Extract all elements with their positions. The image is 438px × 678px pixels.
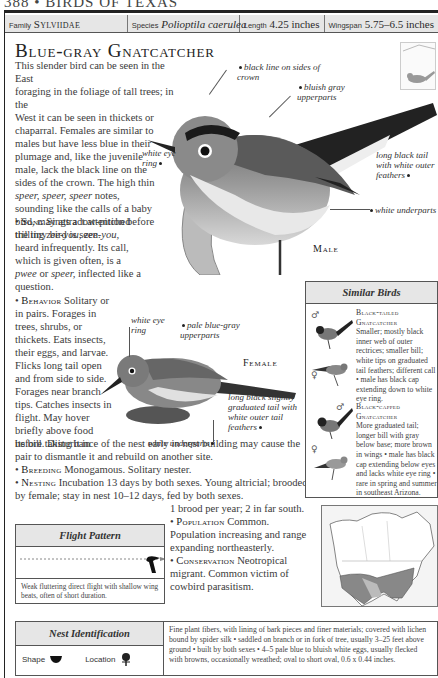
leader-underparts [330, 209, 370, 210]
wingspan-value: 5.75–6.5 inches [365, 18, 434, 30]
wingspan-label: Wingspan [329, 21, 362, 30]
intro-call: speer, speer, speer [15, 190, 92, 201]
family-cell: Family Sylviidae [5, 15, 128, 32]
black-capped-male-thumbnail [312, 406, 354, 440]
cup-nest-shape-icon [49, 654, 63, 664]
female-annotation-eye-ring-text: white eye ring [131, 315, 165, 335]
annotation-upperparts: bluish gray upperparts [297, 82, 357, 102]
female-annotation-tail-text: long black slightly graduated tail with … [228, 392, 297, 432]
male-bird-illustration [145, 85, 438, 275]
annotation-underparts: white underparts [368, 205, 438, 215]
info-bar: Family Sylviidae Species Polioptila caer… [5, 15, 438, 33]
conservation-heading: Conservation [176, 555, 234, 566]
nest-icons-row: Shape Location [16, 646, 163, 672]
similar-bird-text: Black-capped Gnatcatcher More graduated … [356, 402, 438, 498]
breeding-heading: Breeding [21, 464, 61, 475]
nest-description: Fine plant fibers, with lining of bark p… [164, 622, 437, 675]
intro-text: chaparral. Females are similar to males … [15, 125, 155, 188]
similar-bird-description: More graduated tail; longer bill with gr… [356, 421, 438, 498]
length-label: Length [244, 21, 267, 30]
similar-bird-name: Black-tailed Gnatcatcher [356, 308, 438, 327]
annotation-crown-text: black line on sides of crown [237, 62, 320, 82]
annotation-tail-text: long black tail with white outer feather… [376, 150, 435, 180]
flight-pattern-caption: Weak fluttering direct flight with shall… [16, 579, 164, 603]
bird-silhouette-icon [401, 43, 437, 91]
black-capped-female-thumbnail [312, 450, 354, 482]
song-heading: Song [21, 216, 43, 227]
left-rule [4, 13, 5, 678]
population-heading: Population [176, 516, 224, 527]
similar-bird-name: Black-capped Gnatcatcher [356, 402, 438, 421]
female-leader-underparts [213, 420, 214, 442]
north-america-map [322, 506, 438, 608]
nest-identification-panel: Nest Identification Shape Location Fine … [15, 621, 438, 676]
nesting-section: • Nesting Incubation 13 days by both sex… [15, 476, 315, 502]
breeding-text: Monogamous. Solitary nester. [64, 464, 191, 475]
page-thumbnail [400, 42, 436, 90]
species-value: Polioptila caerulea [161, 18, 246, 30]
flight-path-icon [16, 547, 164, 579]
flight-pattern-heading: Flight Pattern [16, 525, 164, 547]
female-annotation-eye-ring: white eye ring [131, 315, 171, 335]
nest-identification-left: Nest Identification Shape Location [16, 622, 164, 675]
species-cell: Species Polioptila caerulea [128, 15, 240, 32]
population-section: • Population Common. Population increasi… [170, 515, 315, 554]
species-label: Species [132, 21, 159, 30]
female-label: Female [243, 357, 277, 368]
female-annotation-underparts-text: white underparts [148, 438, 209, 448]
annotation-eye-ring-text: white eye ring [142, 148, 176, 168]
flight-pattern-panel: Flight Pattern Weak fluttering direct fl… [15, 524, 165, 604]
female-annotation-upperparts: pale blue-gray upperparts [180, 320, 250, 340]
similar-birds-heading: Similar Birds [306, 282, 437, 304]
call-italic-2: speer, [51, 268, 75, 279]
nesting-continued: 1 brood per year; 2 in far south. [170, 502, 315, 515]
similar-birds-panel: Similar Birds ♂ ♀ Black-tailed Gnatcatch… [305, 281, 438, 498]
similar-bird-text: Black-tailed Gnatcatcher Smaller; mostly… [356, 308, 438, 404]
annotation-crown: black line on sides of crown [237, 62, 337, 82]
conservation-section: • Conservation Neotropical migrant. Comm… [170, 554, 315, 593]
annotation-tail: long black tail with white outer feather… [376, 150, 436, 180]
song-or: or [37, 268, 51, 279]
length-value: 4.25 inches [269, 18, 319, 30]
intro-paragraph: This slender bird can be seen in the Eas… [15, 59, 155, 241]
location-label: Location [85, 655, 115, 664]
black-tailed-male-thumbnail [312, 316, 354, 350]
family-value: Sylviidae [34, 18, 80, 30]
female-annotation-underparts: white underparts [148, 438, 223, 448]
nesting-heading: Nesting [21, 477, 56, 488]
nest-identification-heading: Nest Identification [16, 622, 163, 646]
female-leader-eye-ring [129, 327, 130, 357]
behavior-heading: Behavior [21, 295, 61, 306]
breeding-section: • Breeding Monogamous. Solitary nester. [15, 463, 315, 476]
call-italic-1: pwee [15, 268, 37, 279]
male-label: Male [313, 243, 339, 254]
wingspan-cell: Wingspan 5.75–6.5 inches [325, 15, 438, 32]
song-text-mid: heard infrequently. Its call, which is g… [15, 242, 129, 266]
nesting-text: Incubation 13 days by both sexes. Young … [15, 477, 308, 501]
song-section: • Song Sings a low-pitched trilling zee-… [15, 215, 143, 293]
female-annotation-tail: long black slightly graduated tail with … [228, 392, 308, 432]
black-tailed-female-thumbnail [310, 358, 354, 388]
family-label: Family [9, 21, 31, 30]
tree-fork-location-icon [119, 652, 133, 666]
song-italic: zee-you, zee-you, [47, 229, 120, 240]
annotation-upperparts-text: bluish gray upperparts [297, 82, 345, 102]
intro-line-1: This slender bird can be seen in the Eas… [15, 59, 175, 85]
range-map [321, 505, 438, 607]
annotation-eye-ring: white eye ring [142, 148, 177, 168]
flight-pattern-diagram [16, 547, 164, 579]
top-rule [4, 10, 438, 13]
shape-label: Shape [22, 655, 45, 664]
similar-bird-description: Smaller; mostly black inner web of outer… [356, 327, 438, 404]
female-annotation-upperparts-text: pale blue-gray upperparts [180, 320, 240, 340]
annotation-underparts-text: white underparts [375, 205, 436, 215]
length-cell: Length 4.25 inches [240, 15, 325, 32]
